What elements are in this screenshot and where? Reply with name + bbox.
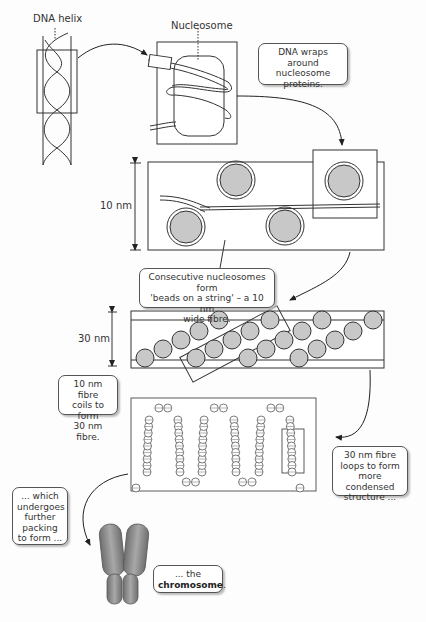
callout-beads-on-string: Consecutive nucleosomes form 'beads on a…	[139, 268, 275, 308]
dna-helix-icon	[37, 28, 77, 165]
callout-loops: 30 nm fibre loops to form more condensed…	[332, 446, 408, 496]
chromosome-word: chromosome	[158, 580, 223, 590]
callout-dna-wraps: DNA wraps around nucleosome proteins.	[258, 43, 348, 85]
beads-line-2: 'beads on a string' – a 10 nm	[144, 293, 270, 314]
beads-line-1: Consecutive nucleosomes form	[144, 272, 270, 293]
loops-line-3: more condensed	[337, 471, 403, 492]
loops-line-1: 30 nm fibre	[337, 450, 403, 461]
looped-fibre	[131, 398, 316, 492]
packing-line-1: ... which	[17, 491, 63, 502]
loops-line-4: structure ...	[337, 492, 403, 503]
ten-nm-fibre	[130, 150, 384, 250]
nucleosome-icon	[148, 28, 237, 144]
packing-line-3: further	[17, 512, 63, 523]
thirty-nm-label: 30 nm	[78, 333, 110, 345]
chromosome-icon	[98, 523, 149, 604]
coils-line-3: 30 nm fibre.	[63, 421, 113, 442]
dna-helix-label: DNA helix	[33, 13, 82, 25]
ten-nm-label: 10 nm	[100, 200, 132, 212]
diagram-canvas: DNA helix Nucleosome 10 nm 30 nm DNA wra…	[0, 0, 426, 622]
packing-line-5: to form ...	[17, 533, 63, 544]
chromosome-line: chromosome.	[158, 580, 218, 591]
coils-line-1: 10 nm fibre	[63, 379, 113, 400]
callout-coils: 10 nm fibre coils to form 30 nm fibre.	[58, 375, 118, 415]
loops-line-2: loops to form	[337, 461, 403, 472]
nucleosome-label: Nucleosome	[171, 20, 233, 32]
callout-chromosome: ... the chromosome.	[153, 565, 223, 593]
coils-line-2: coils to form	[63, 400, 113, 421]
chromosome-prefix: ... the	[158, 569, 218, 580]
packing-line-4: packing	[17, 523, 63, 534]
beads-line-3: wide fibre.	[144, 314, 270, 325]
callout-further-packing: ... which undergoes further packing to f…	[12, 487, 68, 545]
chromosome-suffix: .	[223, 580, 226, 590]
packing-line-2: undergoes	[17, 502, 63, 513]
